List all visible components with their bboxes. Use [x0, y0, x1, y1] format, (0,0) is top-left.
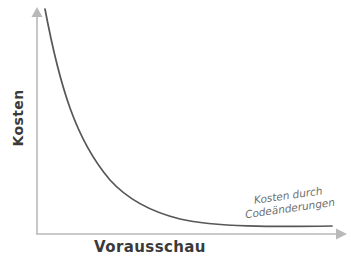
arrow-up-icon	[32, 7, 43, 17]
y-axis-label: Kosten	[10, 88, 26, 148]
plot-area	[0, 0, 358, 267]
arrow-right-icon	[336, 229, 347, 240]
x-axis-label: Vorausschau	[0, 238, 300, 256]
cost-of-change-chart: Vorausschau Kosten Kosten durch Codeände…	[0, 0, 358, 267]
